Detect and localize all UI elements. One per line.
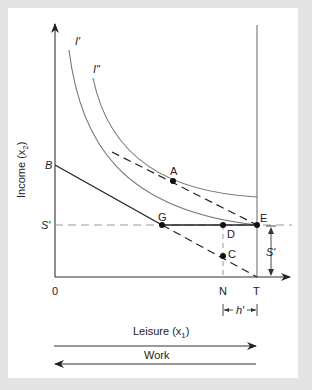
s-prime-bracket-top-arrow	[268, 227, 274, 234]
label-h-prime: h′	[236, 304, 245, 316]
label-n: N	[219, 285, 227, 297]
label-c: C	[228, 248, 236, 260]
label-g: G	[158, 211, 167, 223]
label-i-double-prime: I″	[93, 63, 101, 75]
dashed-budget-gt	[162, 225, 257, 277]
label-t: T	[253, 285, 260, 297]
h-prime-right-arrow	[251, 308, 256, 312]
x-axis-label: Leisure (x1)	[133, 325, 189, 340]
point-c	[220, 253, 226, 259]
budget-line-bg	[55, 165, 162, 225]
y-axis-label: Income (x2)	[15, 142, 30, 198]
label-s-prime-left: S′	[41, 219, 51, 231]
h-prime-left-arrow	[224, 308, 229, 312]
label-origin: 0	[52, 285, 58, 297]
label-b: B	[45, 159, 52, 171]
work-label: Work	[144, 349, 170, 361]
label-a: A	[170, 165, 178, 177]
label-s-prime-right: S′	[266, 246, 276, 258]
indifference-curve-i-prime	[69, 50, 257, 225]
point-a	[170, 178, 176, 184]
point-d	[220, 222, 226, 228]
dashed-budget-through-a	[112, 152, 257, 225]
label-i-prime: I′	[75, 35, 81, 47]
label-e: E	[260, 212, 267, 224]
label-d: D	[227, 228, 235, 240]
labor-leisure-diagram: I′ I″ B S′ A G D E C S′ 0 N T h′ Income …	[0, 0, 312, 390]
s-prime-bracket-bottom-arrow	[268, 269, 274, 276]
